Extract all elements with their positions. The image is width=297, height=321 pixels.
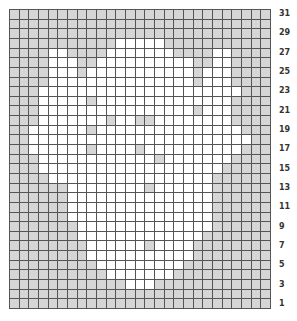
- chart-cell: [223, 222, 233, 232]
- chart-cell: [261, 97, 271, 107]
- chart-cell: [107, 222, 117, 232]
- chart-cell: [184, 68, 194, 78]
- chart-cell: [145, 58, 155, 68]
- chart-cell: [242, 184, 252, 194]
- chart-cell: [203, 126, 213, 136]
- chart-cell: [126, 39, 136, 49]
- chart-cell: [58, 299, 68, 309]
- chart-cell: [58, 251, 68, 261]
- chart-cell: [145, 155, 155, 165]
- chart-cell: [29, 290, 39, 300]
- chart-cell: [126, 20, 136, 30]
- chart-cell: [116, 78, 126, 88]
- chart-cell: [126, 299, 136, 309]
- row-label: 15: [279, 164, 290, 174]
- chart-cell: [87, 145, 97, 155]
- chart-cell: [213, 106, 223, 116]
- chart-cell: [39, 174, 49, 184]
- chart-cell: [20, 203, 30, 213]
- chart-cell: [174, 68, 184, 78]
- chart-cell: [174, 97, 184, 107]
- chart-cell: [78, 222, 88, 232]
- chart-cell: [107, 261, 117, 271]
- chart-cell: [97, 164, 107, 174]
- chart-cell: [232, 241, 242, 251]
- chart-cell: [87, 20, 97, 30]
- chart-cell: [145, 29, 155, 39]
- chart-cell: [203, 155, 213, 165]
- chart-cell: [184, 87, 194, 97]
- chart-cell: [155, 145, 165, 155]
- chart-cell: [136, 49, 146, 59]
- chart-cell: [184, 126, 194, 136]
- chart-cell: [232, 78, 242, 88]
- chart-cell: [10, 290, 20, 300]
- chart-cell: [155, 174, 165, 184]
- chart-cell: [223, 280, 233, 290]
- chart-cell: [194, 78, 204, 88]
- chart-cell: [252, 155, 262, 165]
- chart-cell: [145, 222, 155, 232]
- chart-cell: [203, 97, 213, 107]
- chart-cell: [10, 78, 20, 88]
- chart-cell: [87, 39, 97, 49]
- chart-cell: [252, 68, 262, 78]
- chart-cell: [184, 58, 194, 68]
- chart-cell: [58, 290, 68, 300]
- chart-cell: [174, 164, 184, 174]
- chart-cell: [184, 251, 194, 261]
- chart-cell: [165, 87, 175, 97]
- chart-cell: [232, 290, 242, 300]
- chart-cell: [155, 280, 165, 290]
- chart-cell: [107, 270, 117, 280]
- row-label: 7: [279, 241, 285, 251]
- chart-cell: [10, 126, 20, 136]
- chart-cell: [49, 299, 59, 309]
- chart-cell: [155, 164, 165, 174]
- chart-cell: [203, 222, 213, 232]
- chart-cell: [97, 193, 107, 203]
- chart-cell: [97, 10, 107, 20]
- chart-cell: [107, 10, 117, 20]
- chart-cell: [223, 241, 233, 251]
- chart-cell: [155, 39, 165, 49]
- chart-cell: [49, 251, 59, 261]
- chart-cell: [97, 290, 107, 300]
- chart-cell: [78, 68, 88, 78]
- chart-cell: [261, 261, 271, 271]
- chart-cell: [136, 106, 146, 116]
- chart-cell: [68, 126, 78, 136]
- chart-cell: [232, 280, 242, 290]
- chart-cell: [136, 184, 146, 194]
- chart-cell: [223, 164, 233, 174]
- chart-cell: [261, 280, 271, 290]
- chart-cell: [116, 184, 126, 194]
- chart-cell: [107, 232, 117, 242]
- chart-cell: [136, 145, 146, 155]
- chart-cell: [10, 116, 20, 126]
- chart-cell: [213, 213, 223, 223]
- chart-cell: [203, 184, 213, 194]
- chart-cell: [155, 299, 165, 309]
- chart-cell: [39, 270, 49, 280]
- chart-cell: [20, 193, 30, 203]
- chart-cell: [68, 174, 78, 184]
- chart-cell: [39, 20, 49, 30]
- row-label: 9: [279, 222, 285, 232]
- chart-cell: [145, 135, 155, 145]
- chart-cell: [97, 126, 107, 136]
- chart-cell: [116, 106, 126, 116]
- chart-cell: [58, 280, 68, 290]
- chart-cell: [20, 251, 30, 261]
- chart-cell: [87, 87, 97, 97]
- chart-cell: [87, 174, 97, 184]
- chart-cell: [136, 29, 146, 39]
- chart-cell: [174, 87, 184, 97]
- chart-cell: [136, 155, 146, 165]
- chart-cell: [145, 78, 155, 88]
- chart-cell: [242, 145, 252, 155]
- chart-cell: [184, 155, 194, 165]
- chart-cell: [194, 193, 204, 203]
- chart-cell: [10, 280, 20, 290]
- chart-cell: [49, 10, 59, 20]
